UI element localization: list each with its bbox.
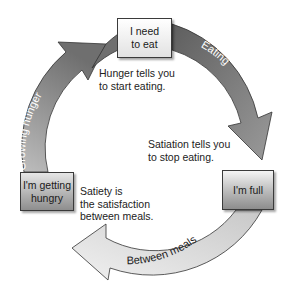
note-line: Satiety is bbox=[80, 185, 160, 198]
stage-label-line2: hungry bbox=[23, 192, 71, 205]
note-line: Hunger tells you bbox=[99, 67, 219, 80]
note-satiety: Satiety is the satisfaction between meal… bbox=[80, 185, 160, 223]
stage-label-line2: to eat bbox=[130, 38, 159, 51]
stage-im-full: I'm full bbox=[222, 170, 274, 210]
stage-im-getting-hungry: I'm getting hungry bbox=[20, 172, 74, 211]
stage-label: I'm full bbox=[233, 184, 263, 197]
note-line: Satiation tells you bbox=[148, 138, 278, 151]
note-line: to stop eating. bbox=[148, 151, 278, 164]
stage-label-line1: I'm getting bbox=[23, 179, 71, 192]
note-line: the satisfaction bbox=[80, 198, 160, 211]
note-satiation: Satiation tells you to stop eating. bbox=[148, 138, 278, 163]
stage-label-line1: I need bbox=[130, 25, 159, 38]
stage-i-need-to-eat: I need to eat bbox=[117, 18, 172, 58]
note-line: to start eating. bbox=[99, 80, 219, 93]
note-hunger: Hunger tells you to start eating. bbox=[99, 67, 219, 92]
note-line: between meals. bbox=[80, 210, 160, 223]
